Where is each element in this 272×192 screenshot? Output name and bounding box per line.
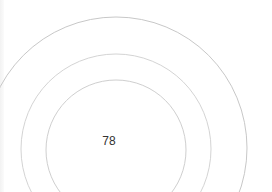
concentric-rings [0, 0, 272, 192]
gauge-widget: 78 [0, 0, 272, 192]
gauge-value: 78 [94, 133, 124, 149]
